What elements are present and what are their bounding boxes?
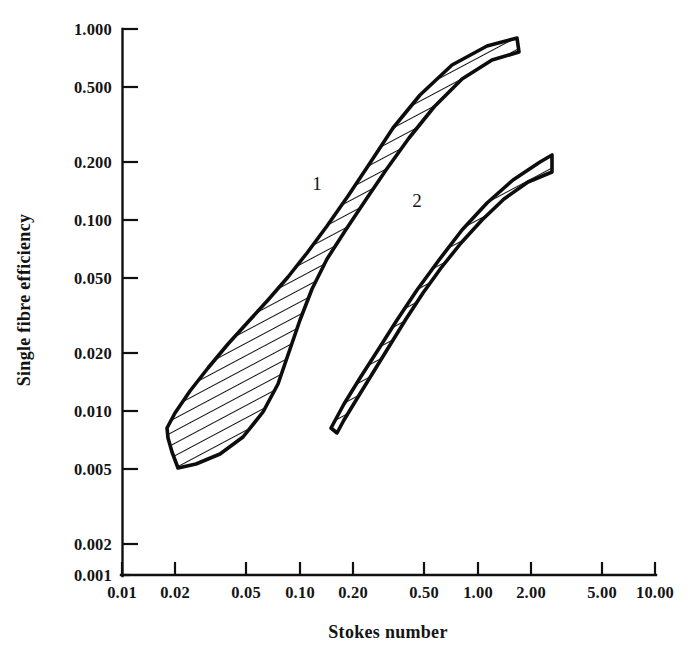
- y-axis-title: Single fibre efficiency: [14, 214, 34, 387]
- y-tick-label-5: 0.020: [74, 344, 112, 363]
- x-tick-label-3: 0.10: [285, 583, 315, 602]
- x-tick-labels: 0.01 0.02 0.05 0.10 0.20 0.50 1.00 2.00 …: [107, 583, 674, 602]
- y-tick-label-3: 0.100: [74, 211, 112, 230]
- x-tick-label-5: 0.50: [409, 583, 439, 602]
- x-tick-marks: [122, 562, 655, 575]
- y-tick-label-6: 0.010: [74, 402, 112, 421]
- x-tick-label-6: 1.00: [463, 583, 493, 602]
- y-tick-label-7: 0.005: [74, 460, 112, 479]
- curve-label-1: 1: [312, 173, 322, 194]
- x-tick-label-7: 2.00: [516, 583, 546, 602]
- band-1: [150, 25, 550, 495]
- x-tick-label-0: 0.01: [107, 583, 137, 602]
- y-tick-label-1: 0.500: [74, 78, 112, 97]
- x-tick-label-9: 10.00: [636, 583, 674, 602]
- chart-figure: 1.000 0.500 0.200 0.100 0.050 0.020 0.01…: [0, 0, 693, 652]
- x-tick-label-4: 0.20: [338, 583, 368, 602]
- chart-canvas: 1.000 0.500 0.200 0.100 0.050 0.020 0.01…: [0, 0, 693, 652]
- y-tick-label-2: 0.200: [74, 153, 112, 172]
- y-tick-label-0: 1.000: [74, 20, 112, 39]
- axis-frame: [121, 29, 656, 576]
- x-tick-label-8: 5.00: [587, 583, 617, 602]
- x-tick-label-1: 0.02: [160, 583, 190, 602]
- x-tick-label-2: 0.05: [231, 583, 261, 602]
- y-tick-labels: 1.000 0.500 0.200 0.100 0.050 0.020 0.01…: [74, 20, 112, 585]
- band-1-hatching: [150, 25, 550, 495]
- y-tick-label-8: 0.002: [74, 535, 112, 554]
- x-axis-title: Stokes number: [328, 622, 447, 642]
- curve-label-2: 2: [412, 190, 422, 211]
- y-tick-marks: [122, 29, 138, 575]
- y-tick-label-4: 0.050: [74, 269, 112, 288]
